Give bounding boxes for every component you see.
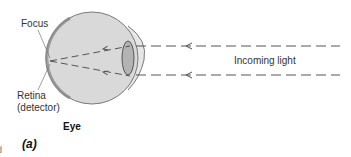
retina-label: Retina: [17, 90, 46, 101]
panel-label: (a): [22, 137, 37, 151]
focus-label: Focus: [21, 18, 48, 29]
detector-label: (detector): [17, 102, 60, 113]
incoming-light-label: Incoming light: [234, 55, 296, 66]
eye-diagram: [0, 0, 351, 157]
edge-fragment: d: [0, 145, 2, 155]
eye-label: Eye: [63, 121, 81, 132]
